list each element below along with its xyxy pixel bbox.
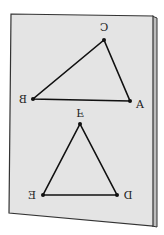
- vertex-e-dot: [41, 193, 45, 197]
- label-d: D: [123, 189, 132, 202]
- vertex-c-dot: [102, 38, 106, 42]
- label-b: B: [19, 93, 27, 106]
- vertex-f-dot: [78, 122, 82, 126]
- vertex-d-dot: [115, 193, 119, 197]
- label-e: E: [28, 189, 36, 202]
- vertex-b-dot: [31, 97, 35, 101]
- label-f: F: [76, 106, 84, 119]
- diagram-canvas: A B C D E F: [0, 0, 164, 235]
- label-c: C: [100, 21, 108, 34]
- vertex-a-dot: [128, 99, 132, 103]
- label-a: A: [135, 98, 145, 111]
